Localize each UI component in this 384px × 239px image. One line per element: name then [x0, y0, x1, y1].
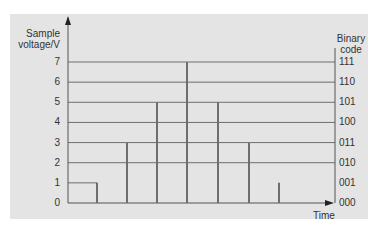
right-axis-label-line1: Binary	[336, 33, 366, 44]
y-tick-label: 4	[44, 117, 60, 127]
y-tick-label: 7	[44, 57, 60, 67]
y-tick-label: 3	[44, 138, 60, 148]
y-tick-label: 2	[44, 158, 60, 168]
binary-tick-label: 101	[339, 97, 356, 107]
binary-tick-label: 111	[339, 57, 354, 67]
y-axis-arrow-icon	[65, 16, 71, 25]
binary-tick-label: 100	[339, 117, 356, 127]
x-axis-arrow-icon	[325, 200, 334, 206]
binary-tick-label: 011	[339, 138, 355, 148]
y-tick-label: 0	[44, 198, 60, 208]
x-axis-label: Time	[313, 210, 335, 221]
binary-tick-label: 110	[339, 77, 355, 87]
binary-tick-label: 001	[339, 178, 356, 188]
right-axis-label: Binary code	[336, 33, 366, 55]
y-axis-label-line1: Sample	[26, 28, 60, 39]
y-axis-label: Sample voltage/V	[26, 28, 60, 50]
right-axis-label-line2: code	[336, 44, 366, 55]
y-tick-label: 1	[44, 178, 60, 188]
y-axis-label-line2: voltage/V	[14, 39, 60, 50]
y-tick-label: 6	[44, 77, 60, 87]
binary-tick-label: 000	[339, 198, 356, 208]
y-tick-label: 5	[44, 97, 60, 107]
binary-tick-label: 010	[339, 158, 356, 168]
